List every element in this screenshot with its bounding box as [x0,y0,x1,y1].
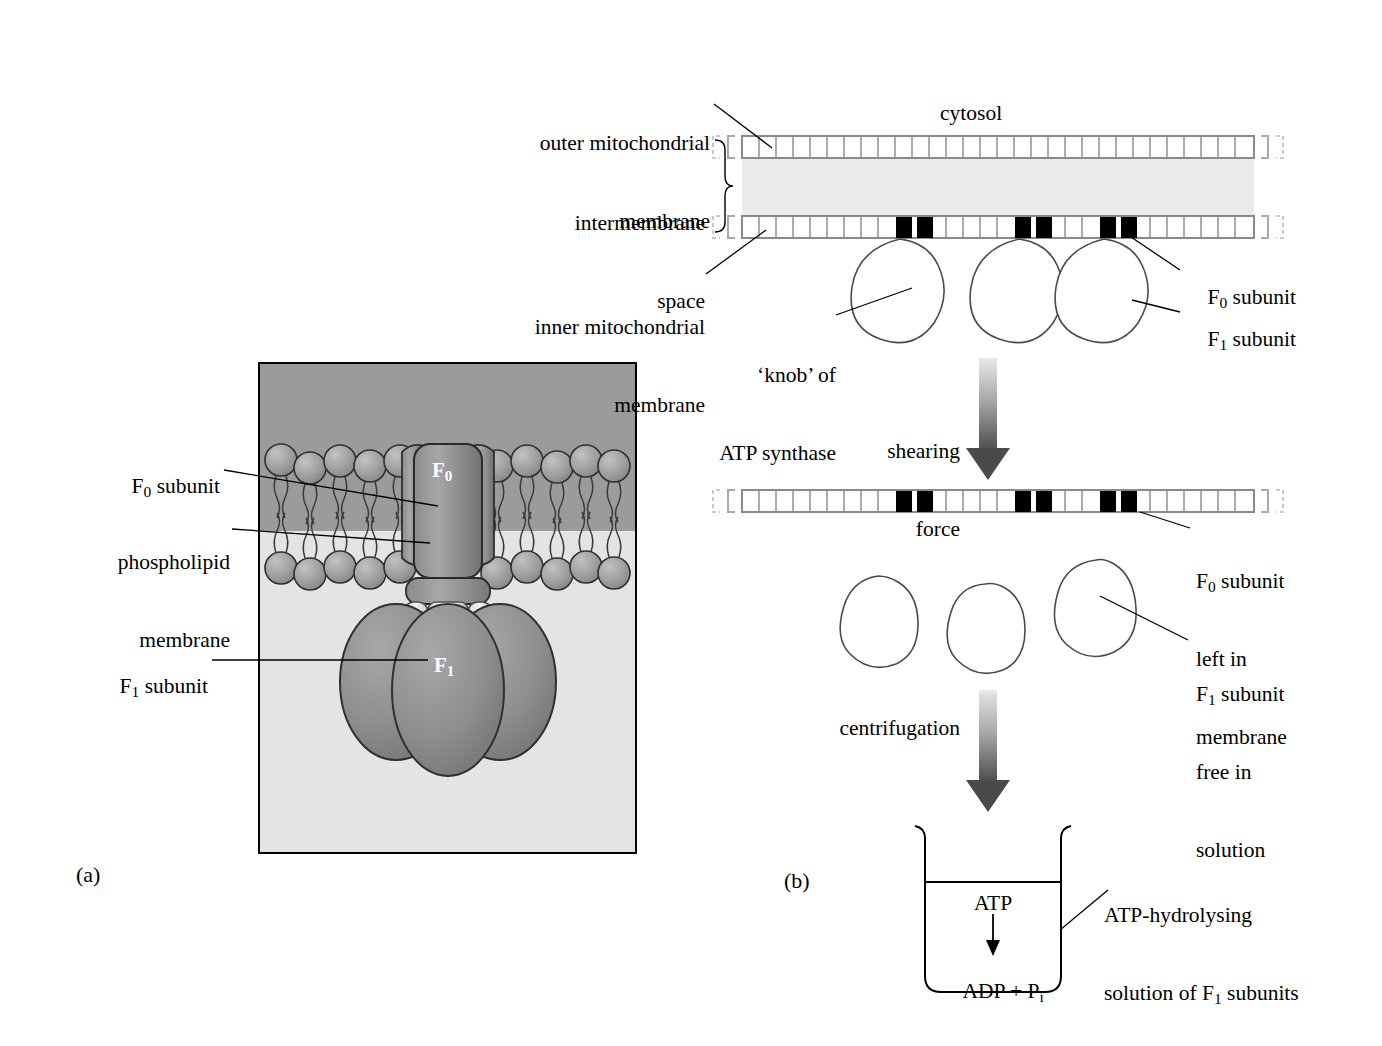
beaker-product-label: ADP + Pi [918,952,1068,1030]
inner-mitochondrial-membrane [713,216,1283,238]
f0-subunit-blocks [896,217,1137,238]
panel-b-tag: (b) [784,868,810,894]
f1-structure-label: F1 [434,653,454,678]
label-f0-subunit-a-text: subunit [151,474,220,498]
panel-a-tag: (a) [76,862,100,888]
label-f1-subunit-a: F1 subunit [48,647,208,725]
label-f1-free-line1: F1 subunit [1196,681,1284,707]
label-beaker-line2: solution of F1 subunits [1104,980,1299,1006]
label-knob-line2: ATP synthase [600,440,836,466]
label-f1-subunit-b: F1 subunit [1186,300,1296,378]
f1-subunit-shape [392,604,504,776]
label-phospholipid-line1: phospholipid [40,549,230,575]
beaker-reactant-label: ATP [933,890,1053,916]
label-knob-line1: ‘knob’ of [600,362,836,388]
figure-canvas: F0 subunit phospholipid membrane F1 subu… [0,0,1382,1046]
label-f0-left-line1: F0 subunit [1196,568,1287,594]
label-shearing-line1: shearing [830,438,960,464]
lipid-bilayer-lower [265,512,630,590]
outer-mitochondrial-membrane [713,136,1283,158]
label-beaker-line1: ATP-hydrolysing [1104,902,1299,928]
attached-f1-knobs [851,239,1148,343]
label-cytosol: cytosol [940,100,1002,126]
label-intermembrane-line1: intermembrane [380,210,705,236]
label-f1-free-line2: free in [1196,759,1284,785]
label-atp-hydrolysing-solution: ATP-hydrolysing solution of F1 subunits [1104,850,1299,1046]
label-centrifugation: centrifugation [790,715,960,741]
shearing-force-arrow [966,358,1010,480]
label-shearing-force: shearing force [830,386,960,594]
intermembrane-brace [715,140,733,232]
label-shearing-line2: force [830,516,960,542]
label-knob-atp-synthase: ‘knob’ of ATP synthase [600,310,836,518]
label-outer-membrane-line1: outer mitochondrial [380,130,710,156]
centrifugation-arrow [966,690,1010,812]
